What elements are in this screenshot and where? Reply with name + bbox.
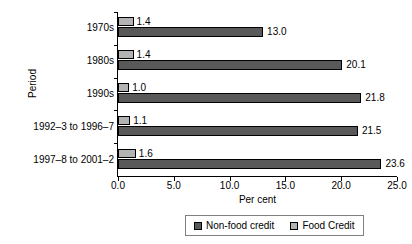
y-axis-tick (114, 78, 118, 79)
chart-legend: Non-food creditFood Credit (185, 215, 364, 236)
y-axis-tick (114, 110, 118, 111)
x-axis-tick-label: 15.0 (276, 180, 295, 191)
bar-group: 1.420.1 (118, 50, 397, 71)
bar-group: 1.021.8 (118, 83, 397, 104)
bar-value-food-credit: 1.1 (133, 116, 147, 126)
x-axis-title: Per cent (118, 194, 397, 205)
x-axis-tick-label: 10.0 (220, 180, 239, 191)
x-axis-tick-labels: 0.05.010.015.020.025.0 (118, 180, 397, 192)
x-axis-line (117, 176, 397, 177)
y-axis-tick (114, 143, 118, 144)
legend-swatch-icon (290, 222, 298, 230)
bar-value-non-food-credit: 23.6 (385, 159, 404, 169)
legend-item: Non-food credit (194, 220, 274, 231)
plot-area: 1.413.01.420.11.021.81.121.51.623.6 (118, 12, 397, 176)
bar-value-non-food-credit: 13.0 (267, 27, 286, 37)
bar-value-food-credit: 1.6 (139, 149, 153, 159)
bar-non-food-credit (118, 27, 263, 37)
bar-group: 1.623.6 (118, 149, 397, 170)
bar-value-food-credit: 1.4 (137, 50, 151, 60)
bar-value-non-food-credit: 21.5 (362, 126, 381, 136)
bar-value-food-credit: 1.4 (137, 17, 151, 27)
legend-label: Non-food credit (206, 220, 274, 231)
legend-item: Food Credit (290, 220, 354, 231)
bar-group: 1.121.5 (118, 116, 397, 137)
bar-value-food-credit: 1.0 (132, 83, 146, 93)
category-label: 1990s (18, 88, 114, 99)
bar-value-non-food-credit: 21.8 (365, 93, 384, 103)
bar-food-credit (118, 17, 134, 26)
category-label: 1997–8 to 2001–2 (18, 154, 114, 165)
bar-non-food-credit (118, 126, 358, 136)
bar-food-credit (118, 116, 130, 125)
category-axis-labels: 1970s1980s1990s1992–3 to 1996–71997–8 to… (18, 12, 114, 176)
y-axis-tick (114, 12, 118, 13)
bar-chart: Period 1970s1980s1990s1992–3 to 1996–719… (0, 0, 412, 244)
bar-food-credit (118, 83, 129, 92)
x-axis-tick-label: 5.0 (167, 180, 181, 191)
bar-group: 1.413.0 (118, 17, 397, 38)
legend-swatch-icon (194, 222, 202, 230)
x-axis-tick-label: 25.0 (387, 180, 406, 191)
category-label: 1970s (18, 22, 114, 33)
y-axis-tick (114, 45, 118, 46)
bar-non-food-credit (118, 93, 361, 103)
x-axis-tick-label: 0.0 (111, 180, 125, 191)
bar-food-credit (118, 149, 136, 158)
bar-non-food-credit (118, 159, 381, 169)
legend-label: Food Credit (302, 220, 354, 231)
x-axis-tick-label: 20.0 (331, 180, 350, 191)
bar-non-food-credit (118, 60, 342, 70)
bar-food-credit (118, 50, 134, 59)
category-label: 1992–3 to 1996–7 (18, 121, 114, 132)
bar-value-non-food-credit: 20.1 (346, 60, 365, 70)
category-label: 1980s (18, 55, 114, 66)
